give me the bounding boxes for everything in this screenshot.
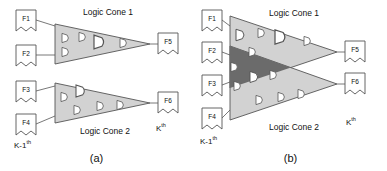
logic-gate bbox=[74, 105, 80, 114]
flipflop-f3-label: F3 bbox=[208, 80, 216, 87]
logic-cone-2-label: Logic Cone 2 bbox=[269, 122, 319, 132]
flipflop-f1[interactable]: F1 bbox=[16, 10, 36, 31]
flipflop-f4-label: F4 bbox=[208, 113, 216, 120]
logic-cone-1-label: Logic Cone 1 bbox=[83, 7, 133, 17]
logic-gate bbox=[249, 47, 255, 56]
stage-label-right-b: Kth bbox=[346, 116, 356, 127]
flipflop-f5[interactable]: F5 bbox=[158, 33, 178, 54]
panel-b-caption: (b) bbox=[194, 152, 387, 164]
flipflop-f6[interactable]: F6 bbox=[158, 92, 178, 113]
wire-f4-cone bbox=[222, 110, 230, 118]
stage-label-left-b: K-1th bbox=[200, 135, 217, 146]
logic-gate bbox=[120, 38, 126, 47]
figure-panel-a: F1 F2 F3 F4 F5 F6 Logic Cone 1 Logic Con… bbox=[0, 0, 193, 171]
logic-gate bbox=[234, 81, 240, 90]
logic-gate bbox=[236, 29, 244, 41]
flipflop-f2-label: F2 bbox=[208, 47, 216, 54]
flipflop-f2-label: F2 bbox=[22, 50, 30, 57]
logic-gate bbox=[79, 32, 85, 41]
logic-gate bbox=[76, 85, 84, 97]
logic-gate bbox=[275, 30, 285, 44]
logic-gate bbox=[231, 62, 237, 71]
logic-gate bbox=[304, 36, 310, 45]
flipflop-f4[interactable]: F4 bbox=[202, 108, 222, 129]
stage-label-right-a-sup: th bbox=[161, 122, 166, 128]
logic-gate bbox=[258, 28, 264, 37]
figure-panel-b: F1 F2 F3 F4 F5 F6 Logic Cone 1 Logic Con… bbox=[194, 0, 387, 171]
flipflop-f5[interactable]: F5 bbox=[345, 41, 365, 62]
logic-gate bbox=[61, 92, 67, 101]
wire-f4-cone2 bbox=[36, 116, 55, 124]
stage-label-left-b-sup: th bbox=[212, 135, 217, 141]
stage-label-left-a: K-1th bbox=[14, 139, 31, 150]
flipflop-f6-label: F6 bbox=[351, 78, 359, 85]
stage-label-left-a-sup: th bbox=[26, 139, 31, 145]
logic-gate bbox=[270, 70, 276, 79]
logic-gate bbox=[117, 100, 123, 109]
flipflop-f5-label: F5 bbox=[164, 38, 172, 45]
logic-cone-1-label: Logic Cone 1 bbox=[269, 8, 319, 18]
wire-f2-cone bbox=[222, 52, 230, 55]
logic-gate bbox=[278, 92, 284, 101]
logic-gate bbox=[250, 71, 257, 82]
flipflop-f4[interactable]: F4 bbox=[16, 114, 36, 135]
flipflop-f5-label: F5 bbox=[351, 46, 359, 53]
flipflop-f6[interactable]: F6 bbox=[345, 73, 365, 94]
flipflop-f1-label: F1 bbox=[208, 15, 216, 22]
logic-gate bbox=[62, 33, 68, 42]
wire-f1-cone bbox=[222, 20, 230, 26]
flipflop-f3-label: F3 bbox=[22, 86, 30, 93]
flipflop-f1[interactable]: F1 bbox=[202, 10, 222, 31]
flipflop-f2[interactable]: F2 bbox=[202, 42, 222, 63]
stage-label-right-a: Kth bbox=[156, 122, 166, 133]
flipflop-f6-label: F6 bbox=[164, 97, 172, 104]
logic-gate bbox=[256, 95, 262, 104]
logic-cone-2-label: Logic Cone 2 bbox=[80, 126, 130, 136]
flipflop-f2[interactable]: F2 bbox=[16, 45, 36, 66]
logic-gate bbox=[298, 89, 304, 98]
logic-gate bbox=[62, 47, 68, 56]
flipflop-f3[interactable]: F3 bbox=[202, 75, 222, 96]
wire-f3-cone2 bbox=[36, 86, 55, 91]
flipflop-f1-label: F1 bbox=[22, 15, 30, 22]
logic-gate bbox=[97, 101, 103, 110]
panel-a-caption: (a) bbox=[0, 152, 193, 164]
logic-gate bbox=[94, 35, 103, 49]
stage-label-right-b-sup: th bbox=[351, 116, 356, 122]
wire-f3-cone bbox=[222, 82, 230, 85]
flipflop-f3[interactable]: F3 bbox=[16, 81, 36, 102]
wire-f1-cone1 bbox=[36, 20, 55, 26]
flipflop-f4-label: F4 bbox=[22, 119, 30, 126]
panel-b-diagram: F1 F2 F3 F4 F5 F6 Logic Cone 1 Logic Con… bbox=[194, 0, 387, 146]
